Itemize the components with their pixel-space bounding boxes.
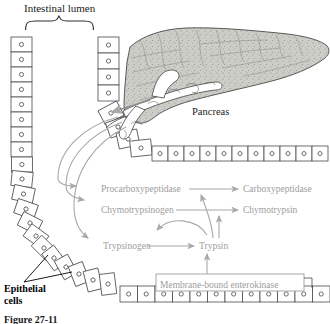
figure-caption: Figure 27-11	[4, 314, 57, 324]
epithelial-cells-label: Epithelial cells	[4, 283, 64, 306]
arrow-trypsin-catalyses-carboxypeptidase	[201, 195, 213, 238]
enzyme-label-chymotrypsin: Chymotrypsin	[243, 205, 297, 215]
intestinal-lumen-label: Intestinal lumen	[24, 2, 95, 14]
cascade-arrows	[148, 189, 238, 278]
enzyme-label-carboxypeptidase: Carboxypeptidase	[243, 184, 312, 194]
pancreas-label: Pancreas	[192, 106, 229, 117]
arrow-trypsin-autocatalysis	[157, 221, 207, 235]
figure-container: Intestinal lumen Pancreas Epithelial cel…	[0, 0, 330, 324]
pancreas-enzyme-activation-diagram	[0, 0, 330, 324]
enterokinase-label: Membrane-bound enterokinase	[160, 280, 278, 290]
enzyme-label-chymotrypsinogen: Chymotrypsinogen	[101, 205, 174, 215]
enzyme-label-procarboxypeptidase: Procarboxypeptidase	[101, 184, 181, 194]
epithelium-top-row	[152, 146, 328, 161]
enzyme-label-trypsin: Trypsin	[199, 241, 228, 251]
epithelium-right-column	[98, 37, 119, 101]
intestinal-lumen-brace	[26, 16, 94, 30]
pancreas-illustration	[106, 28, 329, 139]
enzyme-label-trypsinogen: Trypsinogen	[103, 241, 151, 251]
epithelium-left-column	[11, 37, 32, 172]
